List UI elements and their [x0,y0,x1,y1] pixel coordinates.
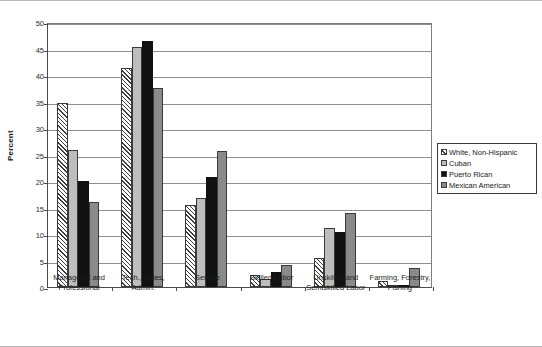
y-axis-tick-mark [44,210,48,211]
x-axis-category-line: Admin. [101,283,185,293]
gridline [48,77,431,78]
y-axis-tick-mark [44,130,48,131]
bar [132,47,143,287]
gridline [48,24,431,25]
x-axis-category-line: Farming, Forestry, [358,273,442,283]
bar [206,177,217,287]
bar [217,151,228,287]
chart-legend: White, Non-HispanicCubanPuerto RicanMexi… [437,143,537,194]
y-axis-tick-label: 25 [36,153,44,161]
y-axis-tick-label: 40 [36,73,44,81]
legend-item: Puerto Rican [441,169,533,179]
bar [153,88,164,287]
y-axis-tick-mark [44,183,48,184]
legend-item: Cuban [441,158,533,168]
legend-label: Puerto Rican [449,170,492,179]
y-axis-tick-label: 15 [36,206,44,214]
bar [121,68,132,287]
y-axis-tick-label: 35 [36,100,44,108]
bar-group [378,24,420,287]
legend-swatch [441,149,447,155]
legend-label: White, Non-Hispanic [449,148,517,157]
y-axis-tick-label: 30 [36,126,44,134]
legend-swatch [441,182,447,188]
bar-group [185,24,227,287]
y-axis-tick-mark [44,104,48,105]
bar [78,181,89,287]
bar-group [314,24,356,287]
gridline [48,130,431,131]
y-axis-tick-mark [44,77,48,78]
y-axis-tick-label: 50 [36,20,44,28]
gridline [48,183,431,184]
y-axis-tick-mark [44,24,48,25]
y-axis-tick-label: 20 [36,179,44,187]
gridline [48,104,431,105]
y-axis-tick-label: 10 [36,232,44,240]
legend-item: Mexican American [441,180,533,190]
gridline [48,263,431,264]
legend-label: Cuban [449,159,471,168]
legend-label: Mexican American [449,181,510,190]
gridline [48,157,431,158]
gridline [48,210,431,211]
y-axis-tick-mark [44,263,48,264]
x-axis-category-label: Farming, Forestry,Fishing [358,273,442,293]
y-axis-tick-label: 45 [36,47,44,55]
gridline [48,236,431,237]
y-axis-label: Percent [6,130,15,161]
chart-figure: Percent 05101520253035404550 Managerial … [0,0,542,347]
bar-group [121,24,163,287]
x-axis-category-line: Fishing [358,283,442,293]
bar [57,103,68,287]
legend-item: White, Non-Hispanic [441,147,533,157]
y-axis-tick-mark [44,157,48,158]
gridline [48,51,431,52]
y-axis-tick-mark [44,236,48,237]
bar-group [57,24,99,287]
bar [142,41,153,287]
bar [68,150,79,287]
plot-area: 05101520253035404550 [47,23,432,288]
y-axis-tick-mark [44,51,48,52]
legend-swatch [441,160,447,166]
bar-group [250,24,292,287]
x-axis-tick-mark [241,287,242,291]
legend-swatch [441,171,447,177]
